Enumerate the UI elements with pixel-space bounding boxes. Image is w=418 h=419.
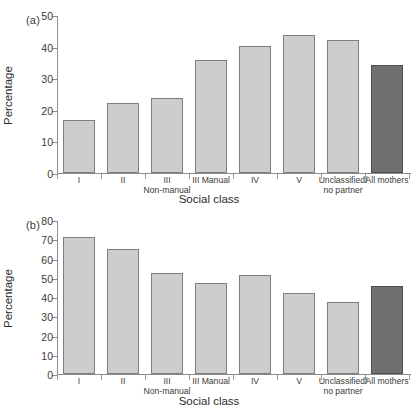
chart-panel-b: (b) Percentage 01020304050607080 IIIIII … [0,205,418,410]
x-axis-title-a: Social class [0,193,418,205]
y-axis-line-b [57,221,58,375]
chart-panel-a: (a) Percentage 01020304050 IIIIII Non-ma… [0,0,418,205]
y-tick-label-b: 80 [41,215,53,227]
y-tick-label-a: 10 [41,136,53,148]
y-axis-title-b: Percentage [2,269,14,328]
x-tick-label: All mothers [358,377,416,387]
bar [327,40,359,173]
y-tick-label-b: 60 [41,254,53,266]
bar [283,35,315,173]
bar [151,98,183,173]
bar [371,286,403,374]
bar [63,120,95,173]
y-tick-label-b: 10 [41,350,53,362]
bar [327,302,359,374]
bar [283,293,315,374]
bar [107,103,139,173]
bar [63,237,95,374]
y-tick-label-a: 40 [41,42,53,54]
bar [239,46,271,173]
bar [195,60,227,173]
y-tick-label-b: 30 [41,311,53,323]
x-tick-label: All mothers [358,176,416,186]
panel-label-a: (a) [26,14,40,26]
y-tick-label-a: 20 [41,105,53,117]
bar [371,65,403,173]
x-axis-line-b [57,374,411,375]
y-tick-label-b: 50 [41,273,53,285]
y-tick-label-a: 30 [41,73,53,85]
panel-label-b: (b) [26,219,40,231]
y-axis-line-a [57,16,58,174]
y-tick-label-a: 50 [41,10,53,22]
y-tick-label-b: 40 [41,292,53,304]
bar [195,283,227,374]
y-axis-title-a: Percentage [2,66,14,125]
plot-area-a: 01020304050 [57,16,409,174]
x-axis-title-b: Social class [0,395,418,407]
plot-area-b: 01020304050607080 [57,221,409,375]
bar [239,275,271,374]
bar [151,273,183,374]
x-axis-line-a [57,173,411,174]
y-tick-label-b: 20 [41,331,53,343]
y-tick-label-b: 70 [41,234,53,246]
bar [107,249,139,374]
